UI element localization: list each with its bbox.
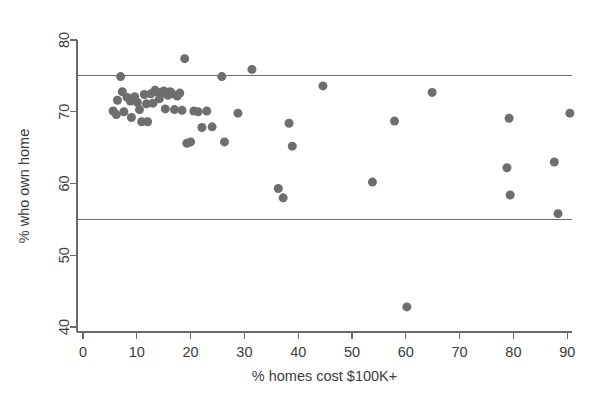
data-point <box>119 107 128 116</box>
y-axis-title: % who own home <box>16 129 32 243</box>
data-point <box>390 117 399 126</box>
data-point <box>202 107 211 116</box>
y-tick-label: 50 <box>56 247 72 263</box>
data-point <box>550 157 559 166</box>
y-tick-label: 60 <box>56 175 72 191</box>
axis-titles-group: % homes cost $100K+% who own home <box>16 129 397 384</box>
x-tick-label: 20 <box>183 344 199 360</box>
data-point <box>197 123 206 132</box>
tick-labels-group: 40506070800102030405060708090 <box>56 32 575 360</box>
data-points-group <box>109 54 575 311</box>
x-tick-label: 30 <box>236 344 252 360</box>
data-point <box>368 178 377 187</box>
data-point <box>220 137 229 146</box>
x-tick-label: 70 <box>452 344 468 360</box>
data-point <box>233 109 242 118</box>
data-point <box>175 89 184 98</box>
x-tick-label: 80 <box>505 344 521 360</box>
data-point <box>177 106 186 115</box>
x-tick-label: 90 <box>559 344 575 360</box>
data-point <box>274 184 283 193</box>
data-point <box>428 88 437 97</box>
x-tick-label: 40 <box>290 344 306 360</box>
scatter-plot-figure: 40506070800102030405060708090 % homes co… <box>0 0 590 394</box>
data-point <box>505 114 514 123</box>
data-point <box>113 96 122 105</box>
data-point <box>143 117 152 126</box>
data-point <box>135 105 144 114</box>
data-point <box>288 142 297 151</box>
data-point <box>247 65 256 74</box>
y-tick-label: 70 <box>56 104 72 120</box>
y-tick-label: 80 <box>56 32 72 48</box>
data-point <box>502 163 511 172</box>
data-point <box>194 107 203 116</box>
data-point <box>127 113 136 122</box>
data-point <box>279 193 288 202</box>
data-point <box>318 81 327 90</box>
x-tick-label: 0 <box>79 344 87 360</box>
x-tick-label: 10 <box>129 344 145 360</box>
data-point <box>180 54 189 63</box>
plot-canvas: 40506070800102030405060708090 % homes co… <box>0 0 590 394</box>
y-tick-label: 40 <box>56 319 72 335</box>
data-point <box>161 104 170 113</box>
data-point <box>565 109 574 118</box>
data-point <box>285 119 294 128</box>
data-point <box>208 122 217 131</box>
data-point <box>506 190 515 199</box>
x-tick-label: 50 <box>344 344 360 360</box>
data-point <box>186 137 195 146</box>
x-axis-title: % homes cost $100K+ <box>252 368 398 384</box>
data-point <box>402 302 411 311</box>
data-point <box>116 72 125 81</box>
data-point <box>554 209 563 218</box>
data-point <box>217 72 226 81</box>
x-tick-label: 60 <box>398 344 414 360</box>
